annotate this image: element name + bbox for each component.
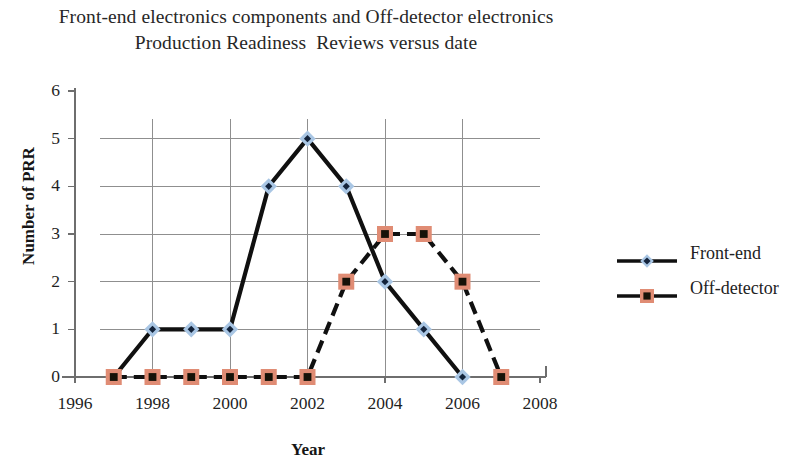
data-point-off-detector-2005 — [416, 226, 432, 242]
data-point-off-detector-1997 — [106, 369, 122, 385]
x-axis-tick-label-1996: 1996 — [45, 393, 105, 414]
x-axis-tick-label-2004: 2004 — [355, 393, 415, 414]
data-point-off-detector-2000 — [222, 369, 238, 385]
x-axis-tick-label-2008: 2008 — [510, 393, 570, 414]
chart-page: Front-end electronics components and Off… — [0, 0, 792, 475]
data-point-off-detector-1999 — [183, 369, 199, 385]
data-point-off-detector-2002 — [300, 369, 316, 385]
x-axis-tick-label-1998: 1998 — [123, 393, 183, 414]
series-line-front-end — [114, 139, 463, 377]
data-point-off-detector-2006 — [455, 274, 471, 290]
chart-legend: Front-end Off-detector — [614, 243, 792, 313]
legend-item-off-detector: Off-detector — [614, 278, 792, 313]
y-axis-tick-label-5: 5 — [34, 128, 60, 149]
legend-label-front-end: Front-end — [690, 243, 761, 264]
y-axis-tick-label-6: 6 — [34, 80, 60, 101]
x-axis-tick-label-2002: 2002 — [278, 393, 338, 414]
legend-label-off-detector: Off-detector — [690, 278, 779, 299]
y-axis-tick-label-1: 1 — [34, 318, 60, 339]
data-point-off-detector-2004 — [377, 226, 393, 242]
y-axis-tick-label-3: 3 — [34, 223, 60, 244]
y-axis-title: Number of PRR — [19, 141, 39, 271]
data-point-off-detector-1998 — [145, 369, 161, 385]
legend-item-front-end: Front-end — [614, 243, 792, 278]
data-point-off-detector-2003 — [338, 274, 354, 290]
data-point-off-detector-2001 — [261, 369, 277, 385]
x-axis-tick-label-2000: 2000 — [200, 393, 260, 414]
y-axis-tick-label-4: 4 — [34, 175, 60, 196]
legend-sample-off-detector-icon — [617, 286, 677, 306]
data-point-front-end-2000 — [222, 321, 238, 337]
x-axis-title: Year — [75, 440, 541, 460]
x-axis-tick-label-2006: 2006 — [433, 393, 493, 414]
y-axis-tick-label-0: 0 — [34, 366, 60, 387]
data-point-front-end-1999 — [183, 321, 199, 337]
data-point-off-detector-2007 — [493, 369, 509, 385]
y-axis-tick-label-2: 2 — [34, 271, 60, 292]
legend-sample-front-end-icon — [617, 251, 677, 271]
